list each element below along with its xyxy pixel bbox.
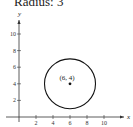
axes: xy246810246810(6, 4) [6,10,131,126]
x-axis-arrow-icon [120,115,124,118]
y-tick-label: 4 [13,81,16,87]
chart-plot: xy246810246810(6, 4) [0,0,133,127]
x-tick-label: 6 [69,120,72,126]
x-tick-label: 8 [86,120,89,126]
x-axis-label: x [126,113,131,121]
point-label: (6, 4) [59,74,75,82]
x-tick-label: 2 [35,120,38,126]
y-tick-label: 2 [13,97,16,103]
y-axis-arrow-icon [17,20,20,24]
y-tick-label: 10 [10,31,16,37]
y-tick-label: 6 [13,64,16,70]
y-tick-label: 8 [13,48,16,54]
center-point [69,82,72,85]
y-axis-label: y [17,10,22,18]
x-tick-label: 10 [101,120,107,126]
x-tick-label: 4 [52,120,55,126]
